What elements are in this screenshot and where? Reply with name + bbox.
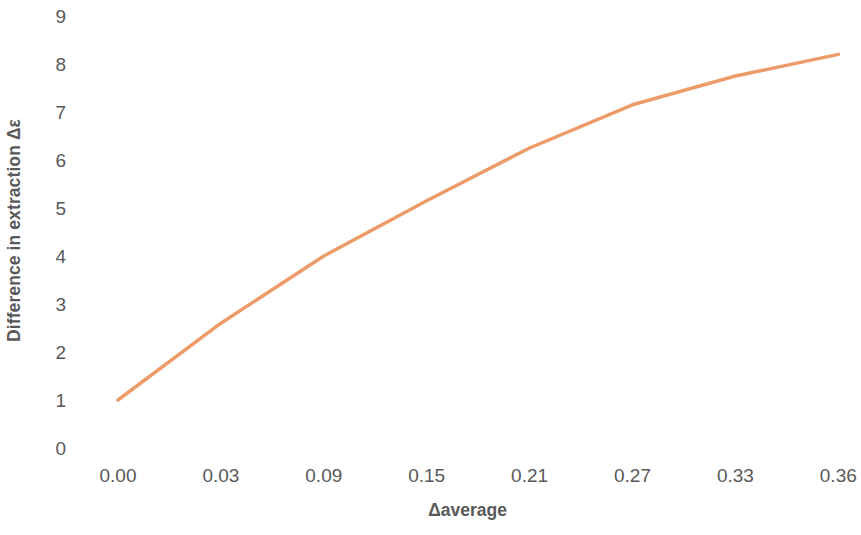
- x-axis-title-text: Δaverage: [428, 500, 507, 520]
- x-axis-tick-label: 0.03: [176, 466, 266, 485]
- y-axis-tick-label: 7: [28, 103, 66, 122]
- y-axis-title-text: Difference in extraction Δε: [4, 119, 25, 342]
- y-axis-tick-label: 3: [28, 295, 66, 314]
- x-axis-tick-label: 0.27: [588, 466, 678, 485]
- y-axis-tick-label: 0: [28, 439, 66, 458]
- line-chart: Difference in extraction Δε 0123456789 0…: [0, 0, 861, 535]
- x-axis-tick-label: 0.36: [793, 466, 861, 485]
- x-axis-tick-label: 0.00: [73, 466, 163, 485]
- y-axis-tick-label: 6: [28, 151, 66, 170]
- x-axis-title: Δaverage: [74, 500, 861, 521]
- y-axis-title: Difference in extraction Δε: [0, 0, 28, 460]
- x-axis-tick-labels: 0.000.030.090.150.210.270.330.36: [74, 462, 861, 494]
- y-axis-tick-label: 9: [28, 7, 66, 26]
- y-axis-tick-label: 2: [28, 343, 66, 362]
- x-axis-tick-label: 0.33: [690, 466, 780, 485]
- y-axis-tick-label: 4: [28, 247, 66, 266]
- plot-svg: [74, 0, 861, 462]
- x-axis-tick-label: 0.21: [485, 466, 575, 485]
- y-axis-tick-label: 8: [28, 55, 66, 74]
- y-axis-tick-label: 5: [28, 199, 66, 218]
- y-axis-tick-label: 1: [28, 391, 66, 410]
- y-axis-tick-labels: 0123456789: [28, 0, 74, 470]
- data-series-line: [118, 54, 838, 400]
- plot-area: [74, 0, 861, 462]
- x-axis-tick-label: 0.15: [382, 466, 472, 485]
- x-axis-tick-label: 0.09: [279, 466, 369, 485]
